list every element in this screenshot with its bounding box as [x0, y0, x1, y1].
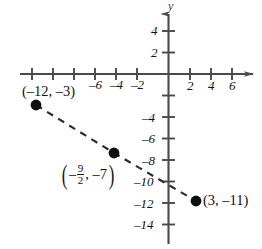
- data-point-marker[interactable]: [191, 196, 202, 207]
- y-tick-label-neg8: –8: [142, 154, 155, 167]
- x-tick-label-2: 2: [187, 79, 194, 92]
- x-tick-label-4: 4: [208, 79, 215, 92]
- y-tick-label-4: 4: [151, 24, 158, 37]
- y-tick-label-neg6: –6: [142, 132, 155, 145]
- data-point-marker[interactable]: [31, 100, 42, 111]
- point-label-first: (–12, –3): [22, 84, 75, 99]
- fraction-tail: , –7: [84, 167, 107, 182]
- fraction-group: – 9 2 , –7: [69, 163, 107, 186]
- y-tick-label-neg14: –14: [134, 218, 154, 231]
- x-tick-label-neg4: –4: [110, 78, 123, 91]
- minus-sign: –: [69, 167, 77, 182]
- y-tick-label-neg4: –4: [142, 111, 155, 124]
- fraction-numerator: 9: [77, 163, 85, 174]
- point-label-third: (3, –11): [203, 193, 248, 208]
- x-tick-label-6: 6: [229, 79, 236, 92]
- fraction: 9 2: [77, 163, 85, 186]
- point-label-second: ( – 9 2 , –7 ): [60, 163, 116, 186]
- open-paren: (: [62, 164, 68, 186]
- fraction-denominator: 2: [77, 174, 85, 186]
- y-axis-label: y: [168, 0, 173, 12]
- x-tick-label-neg2: –2: [131, 78, 144, 91]
- coordinate-plane-figure: y –6 –4 –2 2 4 6 4 2 –4 –6 –8 –10 –12 –1…: [0, 0, 262, 249]
- graph-canvas: [0, 0, 262, 249]
- y-tick-label-neg10: –10: [134, 175, 154, 188]
- x-tick-label-neg6: –6: [89, 78, 102, 91]
- close-paren: ): [109, 164, 115, 186]
- data-point-marker[interactable]: [109, 148, 120, 159]
- y-tick-label-2: 2: [151, 46, 158, 59]
- y-tick-label-neg12: –12: [134, 197, 154, 210]
